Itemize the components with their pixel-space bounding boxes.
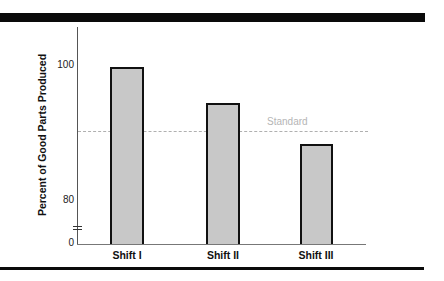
y-axis-label: Percent of Good Parts Produced <box>36 54 48 216</box>
ytick-80: 80 <box>44 194 74 205</box>
axis-break-mark <box>73 229 82 230</box>
xlabel-shift-1: Shift I <box>97 249 157 261</box>
bottom-rule <box>0 267 424 270</box>
top-rule <box>0 13 425 22</box>
xlabel-shift-3: Shift III <box>286 249 346 261</box>
bar-shift-2 <box>206 103 240 244</box>
x-axis <box>77 244 366 245</box>
bar-shift-1 <box>110 67 144 244</box>
ytick-100: 100 <box>44 59 74 70</box>
standard-label: Standard <box>267 116 308 127</box>
y-axis <box>77 27 78 245</box>
axis-break-mark <box>73 226 82 227</box>
xlabel-shift-2: Shift II <box>193 249 253 261</box>
ytick-0: 0 <box>44 237 74 248</box>
bar-shift-3 <box>300 144 333 244</box>
